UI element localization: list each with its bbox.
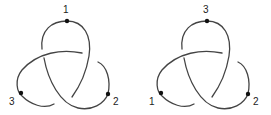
vertex-dot-right: [106, 92, 110, 96]
label-top: 3: [203, 5, 209, 15]
left-trefoil-knot: 1 2 3: [0, 0, 135, 115]
vertex-dot-left: [19, 91, 23, 95]
vertex-dot-left: [159, 91, 163, 95]
label-top: 1: [63, 5, 69, 15]
label-left: 1: [149, 97, 155, 107]
right-trefoil-knot: 3 2 1: [140, 0, 271, 115]
vertex-dot-top: [65, 19, 69, 23]
vertex-dot-right: [246, 92, 250, 96]
label-right: 2: [113, 97, 119, 107]
label-right: 2: [253, 97, 259, 107]
label-left: 3: [9, 97, 15, 107]
vertex-dot-top: [205, 19, 209, 23]
trefoil-knot-drawing: [140, 0, 271, 115]
